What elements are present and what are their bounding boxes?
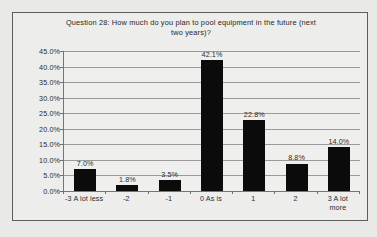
x-axis-tick-label-line: 2 xyxy=(274,194,316,203)
bar[interactable] xyxy=(201,60,223,191)
x-axis-tick-label: -2 xyxy=(105,194,147,203)
y-axis-tick-label: 15.0% xyxy=(16,140,60,149)
x-axis-tick xyxy=(63,191,64,194)
bar[interactable] xyxy=(328,147,350,191)
y-axis-tick-label: 30.0% xyxy=(16,93,60,102)
x-axis-tick-label-line: 1 xyxy=(232,194,274,203)
bar-slot: 22.8% xyxy=(233,51,275,191)
bar-slot: 1.8% xyxy=(106,51,148,191)
x-axis: -3 A lot less-2-10 As is123 A lotmore xyxy=(63,194,359,222)
bar[interactable] xyxy=(286,164,308,191)
bar-data-label: 42.1% xyxy=(202,50,223,59)
bar-data-label: 22.8% xyxy=(244,110,265,119)
bar-slot: 7.0% xyxy=(64,51,106,191)
bar[interactable] xyxy=(116,185,138,191)
bar-data-label: 14.0% xyxy=(328,137,349,146)
x-axis-tick-label-line: 3 A lot xyxy=(317,194,359,203)
x-axis-tick-label: 1 xyxy=(232,194,274,203)
y-axis-tick-label: 35.0% xyxy=(16,78,60,87)
bar-data-label: 8.8% xyxy=(288,153,305,162)
y-axis-tick-label: 40.0% xyxy=(16,62,60,71)
x-axis-tick-label-line: more xyxy=(317,203,359,212)
y-axis-tick-label: 5.0% xyxy=(16,171,60,180)
y-axis-tick-label: 25.0% xyxy=(16,109,60,118)
y-axis: 0.0%5.0%10.0%15.0%20.0%25.0%30.0%35.0%40… xyxy=(13,51,60,191)
x-axis-tick-label: 3 A lotmore xyxy=(317,194,359,212)
y-axis-tick-label: 45.0% xyxy=(16,47,60,56)
bar-data-label: 7.0% xyxy=(77,159,94,168)
x-axis-tick xyxy=(359,191,360,194)
bar-slot: 8.8% xyxy=(275,51,317,191)
x-axis-tick xyxy=(148,191,149,194)
x-axis-tick-label: -1 xyxy=(148,194,190,203)
bar-data-label: 3.5% xyxy=(161,170,178,179)
chart-title: Question 28: How much do you plan to poo… xyxy=(31,18,351,37)
x-axis-tick xyxy=(105,191,106,194)
x-axis-tick-label-line: -3 A lot less xyxy=(63,194,105,203)
x-axis-tick xyxy=(274,191,275,194)
x-axis-tick xyxy=(232,191,233,194)
x-axis-tick-label: 0 As is xyxy=(190,194,232,203)
bar[interactable] xyxy=(74,169,96,191)
chart-screenshot: Question 28: How much do you plan to poo… xyxy=(0,0,377,237)
y-axis-tick-label: 0.0% xyxy=(16,187,60,196)
x-axis-tick xyxy=(190,191,191,194)
x-axis-tick-label-line: -1 xyxy=(148,194,190,203)
x-axis-tick-label-line: -2 xyxy=(105,194,147,203)
bar-data-label: 1.8% xyxy=(119,175,136,184)
x-axis-tick-label: -3 A lot less xyxy=(63,194,105,203)
x-axis-tick-label-line: 0 As is xyxy=(190,194,232,203)
x-axis-tick-label: 2 xyxy=(274,194,316,203)
chart-title-line-2: two years)? xyxy=(31,28,351,38)
y-axis-tick-label: 20.0% xyxy=(16,124,60,133)
x-axis-tick xyxy=(317,191,318,194)
plot-area: 7.0%1.8%3.5%42.1%22.8%8.8%14.0% xyxy=(63,51,360,192)
bar-slot: 42.1% xyxy=(191,51,233,191)
y-axis-tick-label: 10.0% xyxy=(16,155,60,164)
chart-title-line-1: Question 28: How much do you plan to poo… xyxy=(31,18,351,28)
bar-slot: 14.0% xyxy=(318,51,360,191)
bar[interactable] xyxy=(159,180,181,191)
chart-frame: Question 28: How much do you plan to poo… xyxy=(12,12,368,221)
bar[interactable] xyxy=(243,120,265,191)
bar-slot: 3.5% xyxy=(149,51,191,191)
